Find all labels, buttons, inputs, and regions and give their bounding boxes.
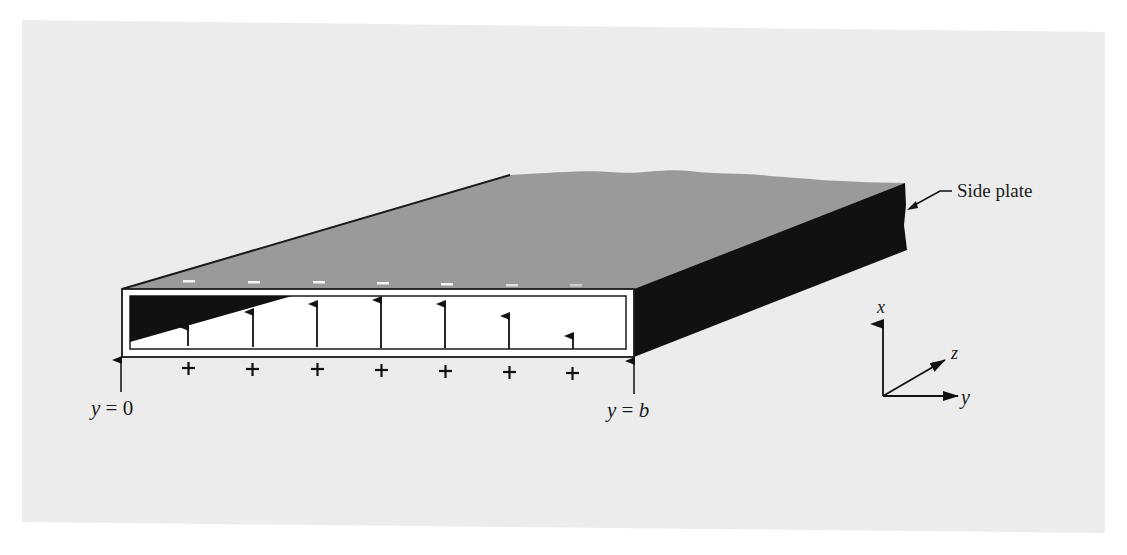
side-plate-label: Side plate: [957, 180, 1032, 202]
y-zero-val: 0: [123, 396, 134, 420]
axis-x-label: x: [877, 297, 885, 318]
y-b-val: b: [639, 398, 650, 422]
y-b-eq: =: [616, 398, 638, 422]
waveguide-diagram: [0, 0, 1127, 555]
axis-z-label: z: [951, 343, 958, 364]
y-b-label: y = b: [607, 398, 649, 423]
y-zero-var: y: [91, 396, 100, 420]
y-b-var: y: [607, 398, 616, 422]
y-zero-eq: =: [100, 396, 122, 420]
y-zero-label: y = 0: [91, 396, 133, 421]
axis-y-label: y: [961, 386, 970, 409]
